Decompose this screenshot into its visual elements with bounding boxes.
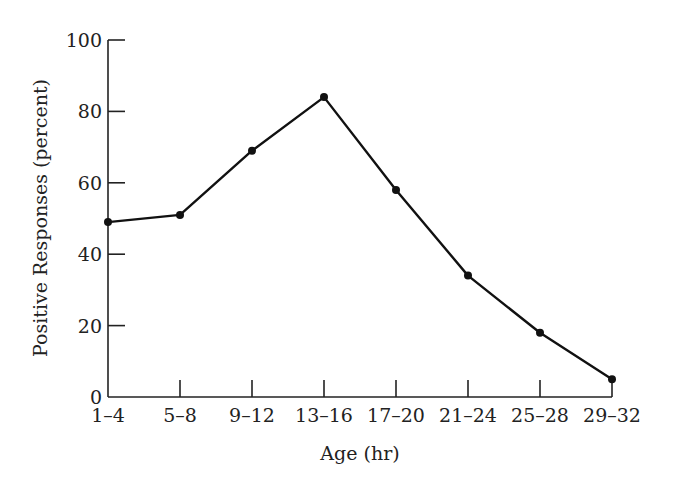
data-point (320, 93, 328, 101)
x-axis-title: Age (hr) (319, 442, 399, 464)
y-tick-label: 60 (78, 172, 102, 194)
x-tick-label: 29–32 (583, 404, 641, 426)
x-tick-label: 1–4 (91, 404, 125, 426)
line-chart: 020406080100 1–45–89–1213–1617–2021–2425… (0, 0, 676, 487)
data-point (392, 186, 400, 194)
x-tick-label: 5–8 (163, 404, 197, 426)
data-point (248, 147, 256, 155)
x-tick-label: 9–12 (229, 404, 275, 426)
data-point (104, 218, 112, 226)
y-axis-title: Positive Responses (percent) (29, 79, 51, 357)
data-series (104, 93, 616, 383)
y-tick-label: 80 (78, 100, 102, 122)
x-tick-label: 17–20 (367, 404, 425, 426)
x-tick-label: 21–24 (439, 404, 497, 426)
y-tick-label: 100 (66, 29, 102, 51)
series-line (108, 97, 612, 379)
y-axis: 020406080100 (66, 29, 125, 408)
y-tick-label: 20 (78, 315, 102, 337)
x-axis: 1–45–89–1213–1617–2021–2425–2829–32 (91, 380, 641, 426)
data-point (176, 211, 184, 219)
x-tick-label: 13–16 (295, 404, 353, 426)
data-point (464, 272, 472, 280)
x-tick-label: 25–28 (511, 404, 569, 426)
data-point (608, 375, 616, 383)
y-tick-label: 40 (78, 243, 102, 265)
data-point (536, 329, 544, 337)
